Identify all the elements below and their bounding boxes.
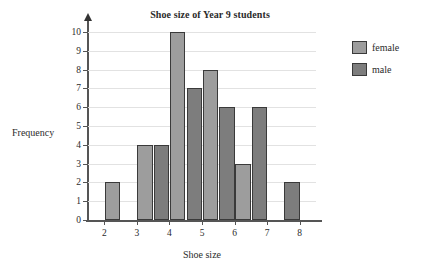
bar-male-5 <box>187 88 203 220</box>
x-axis-tick-label: 5 <box>200 228 205 238</box>
y-axis-tick-label: 6 <box>76 102 81 112</box>
x-axis-tick <box>300 220 301 225</box>
x-axis-tick-label: 7 <box>265 228 270 238</box>
y-axis-arrow-icon <box>84 13 92 21</box>
y-axis-line <box>87 19 89 220</box>
y-axis-tick-label: 10 <box>72 27 82 37</box>
y-axis-tick <box>83 70 88 71</box>
bar-male-8 <box>284 182 300 220</box>
chart-screenshot: Shoe size of Year 9 students Frequency 0… <box>0 0 425 275</box>
y-axis-tick <box>83 51 88 52</box>
y-axis-tick-label: 9 <box>76 46 81 56</box>
legend-item-female: female <box>352 41 399 54</box>
y-axis-tick-label: 4 <box>76 140 81 150</box>
y-axis-tick-label: 8 <box>76 65 81 75</box>
x-axis-tick <box>202 220 203 225</box>
x-axis-tick <box>104 220 105 225</box>
x-axis-tick-label: 4 <box>167 228 172 238</box>
bar-female-2 <box>105 182 121 220</box>
y-axis-tick-label: 5 <box>76 121 81 131</box>
gridline <box>88 32 316 33</box>
y-axis-tick <box>83 145 88 146</box>
legend-label-female: female <box>372 42 399 53</box>
bar-female-5 <box>203 70 219 220</box>
bar-female-6 <box>235 164 251 220</box>
y-axis-tick <box>83 201 88 202</box>
chart-title: Shoe size of Year 9 students <box>95 9 325 20</box>
y-axis-tick <box>83 107 88 108</box>
y-axis-tick <box>83 32 88 33</box>
bar-female-4 <box>170 32 186 220</box>
bar-male-4 <box>154 145 170 220</box>
x-axis-tick-label: 8 <box>297 228 302 238</box>
plot-area: 012345678910 2345678 <box>88 32 316 220</box>
legend-swatch-male <box>352 63 367 76</box>
x-axis-tick <box>267 220 268 225</box>
y-axis-tick <box>83 220 88 221</box>
y-axis-title: Frequency <box>12 127 54 138</box>
y-axis-tick-label: 7 <box>76 83 81 93</box>
y-axis-tick <box>83 164 88 165</box>
y-axis-tick <box>83 126 88 127</box>
legend-item-male: male <box>352 63 399 76</box>
y-axis-tick-label: 2 <box>76 177 81 187</box>
x-axis-tick-label: 3 <box>134 228 139 238</box>
y-axis-tick-label: 3 <box>76 159 81 169</box>
x-axis-tick <box>137 220 138 225</box>
y-axis-tick-label: 0 <box>76 215 81 225</box>
x-axis-tick <box>169 220 170 225</box>
x-axis-tick-label: 6 <box>232 228 237 238</box>
y-axis-tick-label: 1 <box>76 196 81 206</box>
gridline <box>88 51 316 52</box>
legend-label-male: male <box>372 64 391 75</box>
y-axis-tick <box>83 182 88 183</box>
legend-swatch-female <box>352 41 367 54</box>
y-axis-tick <box>83 88 88 89</box>
bar-male-6 <box>219 107 235 220</box>
chart-legend: femalemale <box>352 41 399 85</box>
x-axis-tick-label: 2 <box>102 228 107 238</box>
bar-male-7 <box>252 107 268 220</box>
x-axis-tick <box>235 220 236 225</box>
bar-female-3 <box>137 145 153 220</box>
x-axis-line <box>86 220 322 222</box>
x-axis-title: Shoe size <box>88 249 316 260</box>
